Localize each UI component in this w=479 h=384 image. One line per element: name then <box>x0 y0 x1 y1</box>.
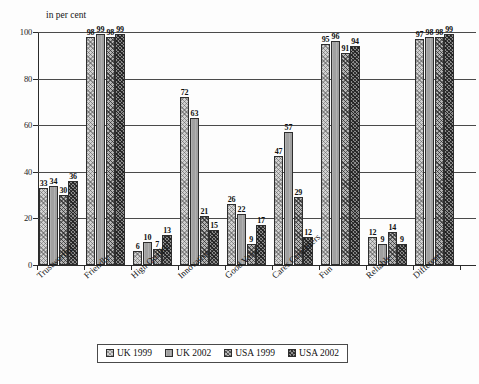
bar: 33 <box>39 188 48 265</box>
bar-value-label: 36 <box>69 172 77 181</box>
y-tick-label: 80 <box>24 74 32 84</box>
plot-area: 3334303698999899610713726321152622917475… <box>38 32 476 265</box>
legend-swatch <box>106 349 114 357</box>
bar: 98 <box>86 37 95 265</box>
bar-group: 95969194 <box>321 32 360 265</box>
bar: 91 <box>341 53 350 265</box>
legend-swatch <box>165 349 173 357</box>
bar-value-label: 9 <box>400 235 404 244</box>
bar-value-label: 99 <box>445 25 453 34</box>
legend-swatch <box>224 349 232 357</box>
bar-group: 129149 <box>368 32 407 265</box>
legend-label: UK 2002 <box>176 348 211 358</box>
y-tick-label: 0 <box>28 260 32 270</box>
bar-value-label: 14 <box>388 223 396 232</box>
bar: 98 <box>106 37 115 265</box>
bar-value-label: 95 <box>322 35 330 44</box>
bar-value-label: 94 <box>351 37 359 46</box>
legend-label: USA 1999 <box>235 348 275 358</box>
bar-value-label: 33 <box>40 179 48 188</box>
bar-value-label: 12 <box>369 228 377 237</box>
legend-item[interactable]: UK 1999 <box>106 348 152 358</box>
y-tick-label: 20 <box>24 213 32 223</box>
y-tick-label: 40 <box>24 167 32 177</box>
bar-value-label: 9 <box>249 235 253 244</box>
bar-value-label: 99 <box>97 25 105 34</box>
bar-value-label: 98 <box>426 28 434 37</box>
chart-page: in per cent 020406080100 333430369899989… <box>0 0 479 384</box>
y-axis-unit-label: in per cent <box>46 10 86 20</box>
x-tick-mark <box>460 265 461 270</box>
bar-value-label: 13 <box>163 226 171 235</box>
bar-value-label: 47 <box>275 147 283 156</box>
bar: 94 <box>350 46 359 265</box>
bar-group: 47572912 <box>274 32 313 265</box>
bar: 99 <box>444 34 453 265</box>
bar: 99 <box>96 34 105 265</box>
bar-value-label: 22 <box>238 205 246 214</box>
bar-value-label: 99 <box>116 25 124 34</box>
y-tick-label: 60 <box>24 120 32 130</box>
bar: 63 <box>190 118 199 265</box>
bar-value-label: 9 <box>380 235 384 244</box>
bar-value-label: 17 <box>257 216 265 225</box>
bar-value-label: 21 <box>200 207 208 216</box>
bar-group: 98999899 <box>86 32 125 265</box>
bar-value-label: 29 <box>294 188 302 197</box>
bar-value-label: 15 <box>210 221 218 230</box>
bar: 47 <box>274 156 283 266</box>
bar-value-label: 26 <box>228 195 236 204</box>
legend-item[interactable]: USA 2002 <box>288 348 339 358</box>
bar: 9 <box>397 244 406 265</box>
legend-label: UK 1999 <box>117 348 152 358</box>
bar-value-label: 72 <box>181 88 189 97</box>
bar-value-label: 96 <box>332 32 340 41</box>
bar: 57 <box>284 132 293 265</box>
bar: 96 <box>331 41 340 265</box>
bar-value-label: 97 <box>416 30 424 39</box>
bar-value-label: 57 <box>285 123 293 132</box>
bar: 97 <box>415 39 424 265</box>
bar-group: 33343036 <box>39 32 78 265</box>
bar: 17 <box>256 225 265 265</box>
bar-value-label: 98 <box>106 28 114 37</box>
bar-value-label: 6 <box>136 242 140 251</box>
bar-value-label: 98 <box>87 28 95 37</box>
bar: 15 <box>209 230 218 265</box>
bar: 72 <box>180 97 189 265</box>
chart-legend: UK 1999UK 2002USA 1999USA 2002 <box>97 344 348 363</box>
legend-item[interactable]: UK 2002 <box>165 348 211 358</box>
bar: 98 <box>435 37 444 265</box>
legend-item[interactable]: USA 1999 <box>224 348 275 358</box>
bar-value-label: 91 <box>341 44 349 53</box>
bar-value-label: 10 <box>144 233 152 242</box>
bar-group: 610713 <box>133 32 172 265</box>
y-tick-label: 100 <box>20 27 32 37</box>
bar: 98 <box>425 37 434 265</box>
bar: 99 <box>115 34 124 265</box>
bar-value-label: 34 <box>50 177 58 186</box>
legend-swatch <box>288 349 296 357</box>
bar-group: 97989899 <box>415 32 454 265</box>
bar-value-label: 98 <box>435 28 443 37</box>
bar: 95 <box>321 44 330 265</box>
bar-value-label: 63 <box>191 109 199 118</box>
bar-group: 2622917 <box>227 32 266 265</box>
bar: 26 <box>227 204 236 265</box>
bar-value-label: 30 <box>59 186 67 195</box>
legend-label: USA 2002 <box>299 348 339 358</box>
bar-group: 72632115 <box>180 32 219 265</box>
